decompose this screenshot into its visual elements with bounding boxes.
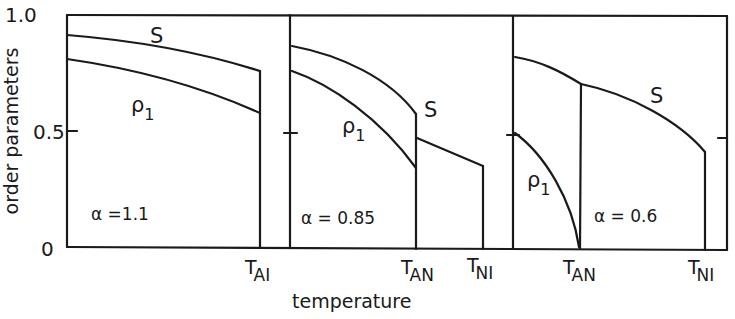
figure: 1.0 0.5 0 order parameters S ρ1 α =1.1 T… xyxy=(0,0,735,319)
x-axis-label: temperature xyxy=(292,292,411,311)
p2-alpha-annotation: α = 0.85 xyxy=(301,210,375,227)
p1-rho1-label: ρ1 xyxy=(131,95,155,123)
p1-S-label: S xyxy=(150,26,163,47)
frame-bottom xyxy=(67,247,727,250)
p3-alpha-annotation: α = 0.6 xyxy=(594,208,657,225)
p2-S-curve-nematic xyxy=(417,138,483,166)
ytick-label-05: 0.5 xyxy=(33,122,65,142)
p2-TNI-label: TNI xyxy=(467,256,493,282)
p3-S-curve-nematic xyxy=(581,84,705,152)
ytick-label-0: 0 xyxy=(41,239,54,259)
p3-S-label: S xyxy=(650,86,663,107)
p2-rho1-label: ρ1 xyxy=(342,116,366,144)
p3-TAN-label: TAN xyxy=(563,258,596,284)
y-axis-label: order parameters xyxy=(2,48,21,215)
p1-TAI-label: TAI xyxy=(245,258,270,284)
p2-S-label: S xyxy=(424,100,437,121)
p3-rho1-label: ρ1 xyxy=(527,170,551,198)
ytick-label-1: 1.0 xyxy=(5,5,37,25)
chart-plot xyxy=(0,0,735,319)
p2-TAN-label: TAN xyxy=(401,258,434,284)
p3-S-curve-smectic xyxy=(515,57,581,84)
p1-alpha-annotation: α =1.1 xyxy=(91,206,149,223)
p1-S-curve xyxy=(67,35,260,71)
frame-top xyxy=(67,15,727,16)
p3-TNI-label: TNI xyxy=(688,258,714,284)
p1-rho1-curve xyxy=(67,59,260,113)
p3-transition-TAN xyxy=(580,84,581,249)
